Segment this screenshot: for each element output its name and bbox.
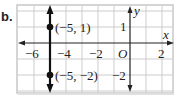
x-tick-neg2: −2 [89, 46, 103, 61]
x-axis-label: x [162, 27, 169, 42]
y-tick-neg2: −2 [112, 68, 126, 83]
origin-label: O [118, 46, 128, 61]
point-label-neg5-neg2: (−5, −2) [55, 68, 98, 83]
point-neg5-1 [47, 24, 54, 31]
point-label-neg5-1: (−5, 1) [55, 20, 91, 35]
x-tick-neg4: −4 [57, 46, 71, 61]
x-tick-2: 2 [158, 46, 165, 61]
x-tick-neg6: −6 [25, 46, 39, 61]
coordinate-plane: (−5, 1) (−5, −2) −6 −4 −2 2 O 1 −2 y x [0, 0, 189, 102]
y-axis-label: y [132, 3, 140, 18]
point-neg5-neg2 [47, 72, 54, 79]
y-tick-1: 1 [120, 19, 127, 34]
